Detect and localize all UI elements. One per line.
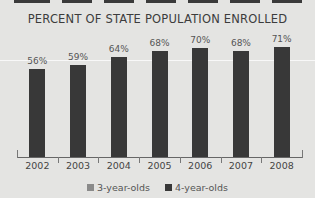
x-tick-mark <box>17 150 18 158</box>
x-tick-mark <box>302 150 303 158</box>
x-tick-label: 2005 <box>139 160 180 171</box>
value-label: 59% <box>58 52 98 62</box>
x-tick-label: 2002 <box>17 160 58 171</box>
x-axis-line <box>17 157 302 158</box>
bar-2004 <box>111 57 127 157</box>
bar-2005 <box>152 51 168 157</box>
x-tick-label: 2006 <box>180 160 221 171</box>
bar-2007 <box>233 51 249 157</box>
legend-label: 4-year-olds <box>175 182 228 193</box>
value-label: 68% <box>221 38 261 48</box>
x-tick-label: 2007 <box>220 160 261 171</box>
chart-title: PERCENT OF STATE POPULATION ENROLLED <box>0 12 315 26</box>
x-tick-label: 2003 <box>58 160 99 171</box>
x-tick-label: 2004 <box>98 160 139 171</box>
value-label: 56% <box>17 56 57 66</box>
legend-item-4-year-olds: 4-year-olds <box>165 182 228 193</box>
cropped-previous-chart-strip <box>0 0 315 5</box>
value-label: 68% <box>140 38 180 48</box>
bar-2003 <box>70 65 86 157</box>
bar-2008 <box>274 47 290 157</box>
value-label: 70% <box>180 35 220 45</box>
legend-label: 3-year-olds <box>97 182 150 193</box>
bar-2006 <box>192 48 208 157</box>
x-tick-label: 2008 <box>261 160 302 171</box>
legend-item-3-year-olds: 3-year-olds <box>87 182 150 193</box>
legend: 3-year-olds 4-year-olds <box>0 182 315 193</box>
bar-2002 <box>29 69 45 157</box>
legend-swatch-icon <box>87 184 94 191</box>
value-label: 64% <box>99 44 139 54</box>
legend-swatch-icon <box>165 184 172 191</box>
value-label: 71% <box>262 34 302 44</box>
